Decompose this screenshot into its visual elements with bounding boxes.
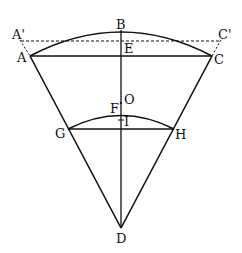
line-ad <box>30 56 121 228</box>
geometry-diagram: B A' C' E A C O F I G H D <box>0 0 242 253</box>
label-h: H <box>175 127 186 142</box>
label-a: A <box>16 50 27 65</box>
line-cd <box>121 56 212 228</box>
label-o: O <box>124 92 135 107</box>
point-o <box>120 102 122 104</box>
label-a-prime: A' <box>11 27 25 42</box>
label-e: E <box>124 41 134 56</box>
label-i: I <box>124 114 129 129</box>
label-c-prime: C' <box>218 27 232 42</box>
label-f: F <box>110 101 119 116</box>
label-g: G <box>55 126 65 141</box>
label-c: C <box>214 52 224 67</box>
label-b: B <box>116 17 126 32</box>
label-d: D <box>116 231 126 246</box>
